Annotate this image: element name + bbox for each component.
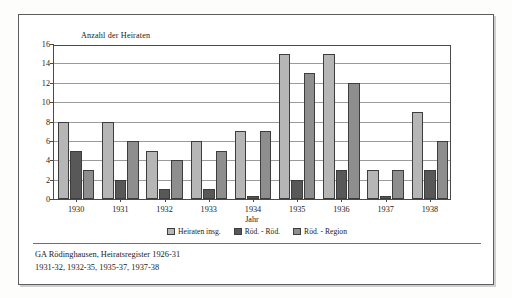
- bar: [304, 73, 316, 199]
- x-tick-label: 1932: [156, 205, 172, 214]
- x-tick-label: 1930: [68, 205, 84, 214]
- bar-group: [58, 46, 95, 199]
- bar: [203, 189, 215, 199]
- x-tick-mark: [386, 199, 387, 202]
- y-tick-label: 14: [42, 59, 50, 68]
- bar: [424, 170, 436, 199]
- bar: [102, 122, 114, 200]
- y-tick-label: 16: [42, 40, 50, 49]
- y-tick-mark: [50, 199, 54, 200]
- x-tick-label: 1933: [201, 205, 217, 214]
- y-tick-mark: [50, 44, 54, 45]
- x-tick-mark: [76, 199, 77, 202]
- x-tick-mark: [209, 199, 210, 202]
- bar: [171, 160, 183, 199]
- y-tick-label: 0: [46, 195, 50, 204]
- y-tick-label: 2: [46, 175, 50, 184]
- y-tick-label: 6: [46, 136, 50, 145]
- y-tick-mark: [50, 122, 54, 123]
- x-tick-label: 1931: [112, 205, 128, 214]
- bar-group: [191, 46, 228, 199]
- y-axis-title: Anzahl der Heiraten: [81, 31, 150, 40]
- x-tick-mark: [253, 199, 254, 202]
- chart-container: Anzahl der Heiraten 0246810121416 193019…: [19, 15, 495, 286]
- bar-group: [146, 46, 183, 199]
- legend-swatch-icon: [293, 228, 301, 235]
- bar: [260, 131, 272, 199]
- bar-group: [412, 46, 449, 199]
- y-tick-mark: [50, 180, 54, 181]
- bar-group: [323, 46, 360, 199]
- y-tick-mark: [50, 102, 54, 103]
- legend-item: Röd. - Röd.: [234, 227, 280, 236]
- bar: [348, 83, 360, 199]
- y-tick-label: 12: [42, 78, 50, 87]
- footer-divider: [33, 243, 481, 244]
- bar: [146, 151, 158, 199]
- y-tick-label: 10: [42, 98, 50, 107]
- bar: [115, 180, 127, 199]
- bar: [291, 180, 303, 199]
- y-tick-mark: [50, 63, 54, 64]
- bar: [70, 151, 82, 199]
- x-tick-label: 1937: [377, 205, 393, 214]
- bar: [58, 122, 70, 200]
- x-axis-title: Jahr: [53, 215, 451, 224]
- bar: [279, 54, 291, 199]
- bar: [323, 54, 335, 199]
- bar: [437, 141, 449, 199]
- x-tick-label: 1938: [422, 205, 438, 214]
- bar-group: [235, 46, 272, 199]
- y-tick-mark: [50, 83, 54, 84]
- y-tick-label: 4: [46, 156, 50, 165]
- x-tick-mark: [297, 199, 298, 202]
- bar: [392, 170, 404, 199]
- bar-group: [102, 46, 139, 199]
- x-tick-mark: [165, 199, 166, 202]
- bar-group: [279, 46, 316, 199]
- x-tick-label: 1934: [245, 205, 261, 214]
- plot-area: 0246810121416 19301931193219331934193519…: [53, 45, 451, 200]
- legend-label: Röd. - Röd.: [245, 227, 280, 236]
- legend-label: Heiraten insg.: [178, 227, 221, 236]
- source-note-line: 1931-32, 1932-35, 1935-37, 1937-38: [35, 262, 180, 275]
- legend-swatch-icon: [234, 228, 242, 235]
- bar: [83, 170, 95, 199]
- page-canvas: Anzahl der Heiraten 0246810121416 193019…: [0, 0, 512, 298]
- source-note-line: GA Rödinghausen, Heiratsregister 1926-31: [35, 249, 180, 262]
- bar: [127, 141, 139, 199]
- bar: [235, 131, 247, 199]
- legend-swatch-icon: [167, 228, 175, 235]
- legend-item: Röd. - Region: [293, 227, 347, 236]
- source-note: GA Rödinghausen, Heiratsregister 1926-31…: [35, 249, 180, 274]
- legend-item: Heiraten insg.: [167, 227, 221, 236]
- bar: [216, 151, 228, 199]
- x-tick-label: 1935: [289, 205, 305, 214]
- bar: [159, 189, 171, 199]
- bar: [336, 170, 348, 199]
- x-tick-mark: [430, 199, 431, 202]
- y-tick-mark: [50, 141, 54, 142]
- y-tick-mark: [50, 160, 54, 161]
- bar-group: [367, 46, 404, 199]
- bar: [412, 112, 424, 199]
- x-tick-mark: [341, 199, 342, 202]
- bar: [367, 170, 379, 199]
- chart-legend: Heiraten insg.Röd. - Röd.Röd. - Region: [19, 227, 495, 236]
- bar: [191, 141, 203, 199]
- x-tick-label: 1936: [333, 205, 349, 214]
- legend-label: Röd. - Region: [304, 227, 347, 236]
- document-frame: Anzahl der Heiraten 0246810121416 193019…: [18, 14, 494, 285]
- y-tick-label: 8: [46, 117, 50, 126]
- x-tick-mark: [120, 199, 121, 202]
